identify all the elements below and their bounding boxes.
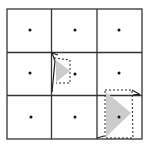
dot [118,72,121,75]
large-bottom-line [97,136,104,138]
grid-diagram [0,0,149,146]
dot [118,116,121,119]
dot [74,116,77,119]
dot [29,72,32,75]
dot [74,73,77,76]
large-triangle [106,92,131,137]
small-triangle-group [52,53,70,92]
dot [30,116,33,119]
small-triangle [56,60,70,82]
large-triangle-group [97,90,140,138]
dot [74,29,77,32]
dot [118,29,121,32]
dot [29,29,32,32]
large-corner-line [132,90,140,95]
